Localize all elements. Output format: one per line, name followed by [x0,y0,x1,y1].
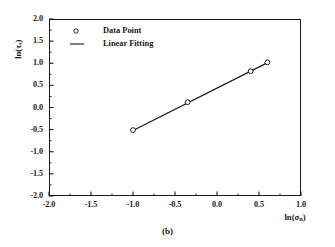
legend-label-linear-fitting: Linear Fitting [103,37,153,50]
line-icon [70,37,96,50]
x-axis-title: ln(σn) [272,212,318,222]
y-tick-label: -0.5 [13,125,43,134]
y-axis-title: ln(τs) [13,22,23,76]
x-tick-label: 1.0 [286,200,316,209]
data-point [265,60,270,65]
figure-caption: (b) [0,226,335,236]
x-axis-title-close: ) [303,212,306,222]
open-circle-icon [70,24,96,37]
legend-label-data-point: Data Point [103,24,141,37]
y-axis-title-base: ln(τ [13,45,23,59]
y-tick-label: 0.5 [13,80,43,89]
x-tick-label: -1.5 [76,200,106,209]
y-tick-label: -1.5 [13,169,43,178]
y-axis-title-close: ) [13,40,23,43]
x-tick-label: -1.0 [118,200,148,209]
data-point [248,69,253,74]
legend-item-linear-fitting: Linear Fitting [70,37,190,50]
data-point [131,128,136,133]
x-tick-label: 0.0 [202,200,232,209]
data-point [185,100,190,105]
legend: Data Point Linear Fitting [70,24,190,50]
y-tick-label: 0.0 [13,103,43,112]
x-tick-label: -2.0 [34,200,64,209]
y-tick-label: -2.0 [13,191,43,200]
legend-item-data-point: Data Point [70,24,190,37]
x-tick-label: -0.5 [160,200,190,209]
x-axis-title-base: ln(σ [284,212,299,222]
y-tick-label: -1.0 [13,147,43,156]
y-axis-title-subscript: s [16,42,23,44]
x-tick-label: 0.5 [244,200,274,209]
figure-panel-b: 2.01.51.00.50.0-0.5-1.0-1.5-2.0 -2.0-1.5… [0,0,335,247]
